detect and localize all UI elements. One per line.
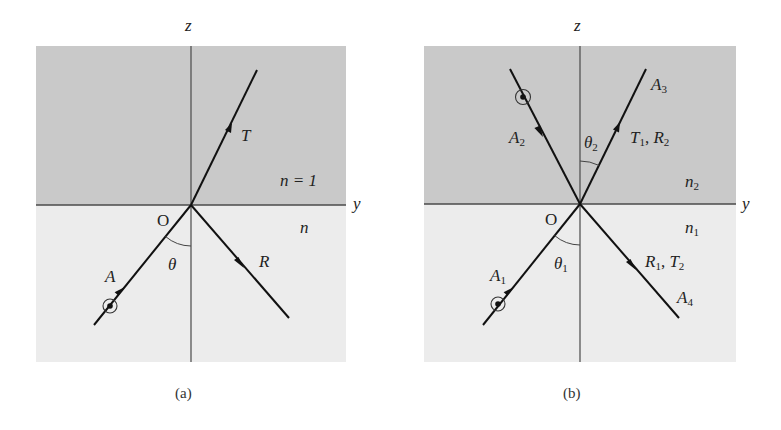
transmitted-label: T	[241, 126, 252, 145]
incident-label: A	[104, 267, 116, 286]
polarization-dot-icon	[107, 303, 113, 309]
origin-label: O	[545, 210, 557, 229]
upper-medium-label: n = 1	[280, 171, 317, 190]
z-axis-label: z	[573, 16, 581, 35]
z-axis-label: z	[184, 16, 192, 35]
polarization-dot-icon	[495, 301, 501, 307]
lower-medium-label: n	[300, 218, 309, 237]
figure-canvas: z y O n = 1 n T R A θ (a) z	[0, 0, 781, 430]
panel-a: z y O n = 1 n T R A θ (a)	[36, 16, 361, 402]
upper-ray-label: T1, R2	[630, 128, 669, 148]
y-axis-label: y	[740, 194, 750, 213]
origin-label: O	[157, 211, 169, 230]
caption-a: (a)	[175, 385, 192, 402]
polarization-dot-icon	[520, 94, 526, 100]
y-axis-label: y	[351, 194, 361, 213]
panel-b: z y O n2 n1 A2 A1 A3 A4 T1, R2 R1, T2 θ2…	[424, 16, 750, 402]
caption-b: (b)	[563, 385, 581, 402]
reflected-label: R	[258, 252, 270, 271]
angle-label: θ	[168, 255, 176, 274]
lower-ray-label: R1, T2	[644, 252, 684, 272]
